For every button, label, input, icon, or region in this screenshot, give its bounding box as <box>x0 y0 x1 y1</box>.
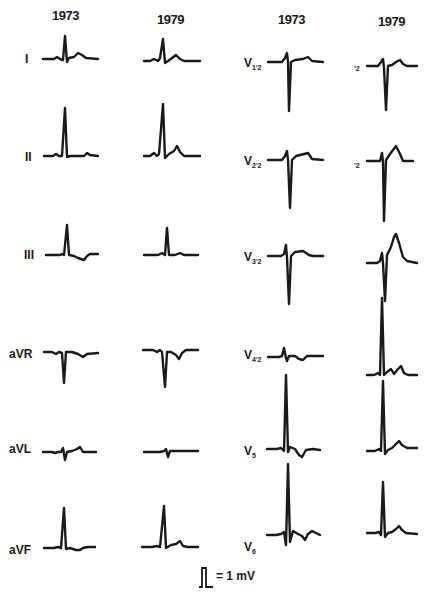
ecg-trace-III-1979 <box>140 220 205 270</box>
lead-label-V3: V3'2 <box>244 250 261 265</box>
lead-label-V6: V6 <box>244 540 256 555</box>
lead-label-V1: V1'2 <box>244 56 261 71</box>
calibration-legend: = 1 mV <box>198 566 255 588</box>
lead-label-V5: V5 <box>244 444 256 459</box>
lead-label-III: III <box>24 248 34 262</box>
ecg-trace-aVF-1979 <box>140 500 205 560</box>
ecg-trace-II-1973 <box>40 100 100 160</box>
ecg-trace-II-1979 <box>140 100 205 160</box>
ecg-trace-aVR-1979 <box>140 340 205 390</box>
column-header-limb-1979: 1979 <box>157 12 184 27</box>
ecg-trace-aVF-1973 <box>40 500 100 560</box>
ecg-trace-aVR-1973 <box>40 340 100 390</box>
ecg-trace-V6-1973 <box>265 460 325 555</box>
ecg-trace-III-1973 <box>40 220 100 270</box>
ecg-trace-V2-1979 <box>365 140 425 230</box>
ecg-trace-V3-1979 <box>365 225 425 305</box>
calibration-label: = 1 mV <box>216 569 255 583</box>
lead-label-aVR: aVR <box>9 347 32 361</box>
lead-label-aVF: aVF <box>9 543 31 557</box>
ecg-trace-aVL-1973 <box>40 440 100 470</box>
column-header-limb-1973: 1973 <box>52 8 79 23</box>
lead-label-I: I <box>25 52 28 66</box>
ecg-trace-V6-1979 <box>365 480 425 560</box>
lead-label-fragment: '2 <box>354 162 360 169</box>
ecg-trace-I-1973 <box>40 30 100 70</box>
column-header-precordial-1979: 1979 <box>378 14 405 29</box>
lead-label-aVL: aVL <box>9 442 31 456</box>
lead-label-fragment: '2 <box>354 65 360 72</box>
ecg-trace-V5-1973 <box>265 370 325 460</box>
column-header-precordial-1973: 1973 <box>278 12 305 27</box>
ecg-trace-aVL-1979 <box>140 440 205 470</box>
lead-label-V2: V2'2 <box>244 154 261 169</box>
ecg-trace-V5-1979 <box>365 370 425 460</box>
ecg-trace-V1-1979 <box>365 40 425 120</box>
lead-label-II: II <box>25 150 32 164</box>
ecg-trace-V2-1973 <box>265 140 325 220</box>
ecg-trace-V1-1973 <box>265 40 325 120</box>
ecg-trace-V3-1973 <box>265 240 325 310</box>
ecg-trace-I-1979 <box>140 30 205 70</box>
calibration-pulse-icon <box>198 566 214 588</box>
lead-label-V4: V4'2 <box>244 348 261 363</box>
